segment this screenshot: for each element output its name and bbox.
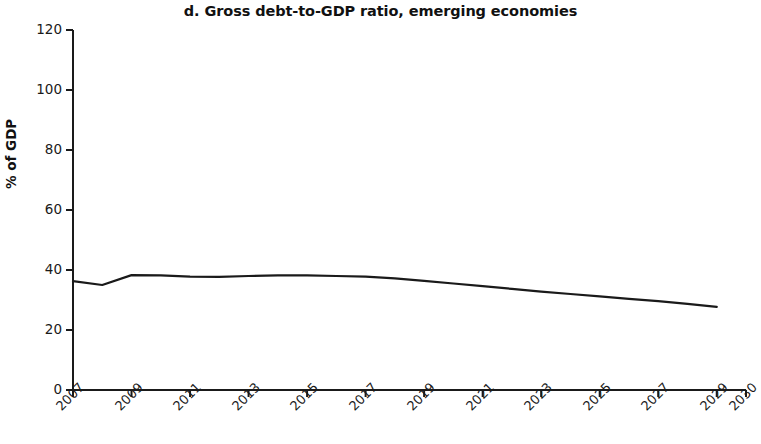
plot-area	[0, 0, 761, 444]
y-tick-label: 20	[24, 321, 62, 337]
y-tick-label: 100	[24, 81, 62, 97]
data-series-group	[73, 275, 717, 307]
y-tick-label: 80	[24, 141, 62, 157]
data-series-line	[73, 275, 717, 307]
y-tick-label: 40	[24, 261, 62, 277]
y-tick-label: 120	[24, 21, 62, 37]
y-axis-ticks	[66, 30, 73, 390]
chart-figure: d. Gross debt-to-GDP ratio, emerging eco…	[0, 0, 761, 444]
y-tick-label: 60	[24, 201, 62, 217]
y-tick-label: 0	[24, 381, 62, 397]
